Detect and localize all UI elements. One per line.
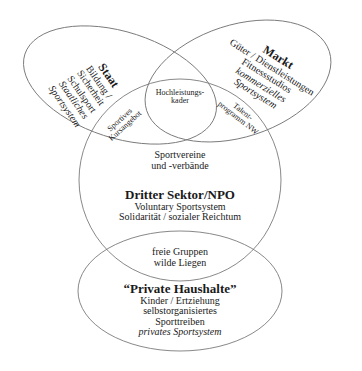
- intersection-line: kader: [145, 97, 215, 105]
- intersection-line: freie Gruppen: [120, 247, 240, 258]
- dritter-sektor-line: Solidarität / sozialer Reichtum: [90, 212, 270, 223]
- dritter-sektor-title: Dritter Sektor/NPO: [90, 188, 270, 202]
- dritter-sektor-main-group: Dritter Sektor/NPO Voluntary Sportsystem…: [90, 188, 270, 223]
- private-haushalte-italic-line: privates Sportsystem: [100, 327, 260, 338]
- intersection-freie-gruppen: freie Gruppen wilde Liegen: [120, 247, 240, 268]
- dritter-sektor-top-line: Sportvereine: [120, 150, 240, 161]
- private-haushalte-group: “Private Haushalte” Kinder / Ertziehung …: [100, 282, 260, 338]
- intersection-hochleistungskader: Hochleistungs- kader: [145, 89, 215, 106]
- dritter-sektor-top-line: und -verbände: [120, 161, 240, 172]
- private-haushalte-title: “Private Haushalte”: [100, 282, 260, 296]
- intersection-line: wilde Liegen: [120, 258, 240, 269]
- dritter-sektor-top-group: Sportvereine und -verbände: [120, 150, 240, 171]
